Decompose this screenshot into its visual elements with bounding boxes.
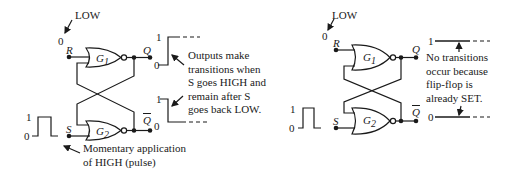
pulse-waveform: [32, 117, 58, 136]
s-input-label: S: [66, 123, 72, 135]
pulse-high-label: 1: [26, 111, 32, 123]
g2-label: G2: [96, 125, 109, 141]
pulse-low-label: 0: [24, 130, 30, 142]
q-wave-level: 1: [428, 35, 434, 47]
qbar-output-label: Q: [143, 114, 151, 126]
g2-label: G2: [363, 114, 376, 130]
g1-label: G1: [363, 51, 376, 67]
pulse-low-label: 0: [289, 122, 295, 134]
low-arrow-icon: [65, 20, 72, 33]
r-level-label: LOW: [75, 9, 100, 21]
outputs-annotation: Outputs make transitions when S goes HIG…: [188, 49, 266, 117]
q-initial-value: 0: [154, 59, 160, 71]
s-input-label: S: [333, 115, 339, 127]
qbar-output-label: Q: [412, 106, 420, 118]
pulse-high-label: 1: [290, 103, 296, 115]
q-wave-high: 1: [156, 31, 162, 43]
qbar-wave-level: 0: [428, 111, 434, 123]
inversion-bubble-g2: [121, 128, 126, 133]
pulse-waveform: [298, 108, 321, 128]
inversion-bubble-g1: [121, 55, 126, 60]
g1-label: G1: [96, 52, 109, 68]
r-input-label: R: [66, 44, 73, 56]
r-level-label: LOW: [332, 9, 357, 21]
no-transition-annotation: No transitions occur because flip-flop i…: [426, 51, 488, 105]
pulse-annotation: Momentary application of HIGH (pulse): [83, 142, 186, 169]
r-value-label: 0: [58, 35, 64, 47]
q-output-label: Q: [412, 43, 420, 55]
r-value-label: 0: [322, 30, 328, 42]
r-input-label: R: [333, 37, 340, 49]
q-output-label: Q: [143, 44, 151, 56]
qbar-initial-value: 0: [154, 120, 160, 132]
qbar-wave-high: 1: [156, 93, 162, 105]
